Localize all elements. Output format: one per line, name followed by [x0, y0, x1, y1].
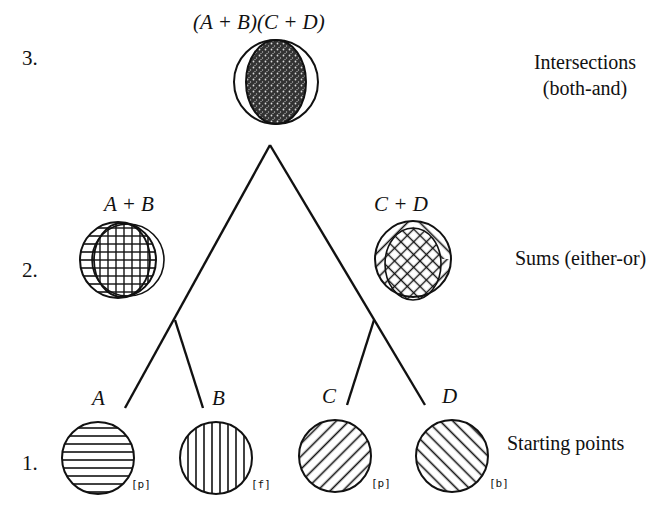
- intersections-subtitle: (both-and): [520, 75, 650, 101]
- node-d-label: D: [442, 384, 457, 409]
- node-c-label: C: [322, 384, 336, 409]
- node-b-tag: [f]: [251, 478, 271, 491]
- node-b-label: B: [212, 386, 225, 411]
- node-a-circle: [62, 422, 134, 494]
- sum-ab-formula: A + B: [104, 192, 154, 217]
- starting-points-description: Starting points: [507, 430, 667, 456]
- node-d-circle: [416, 420, 488, 492]
- sum-cd-circle: [375, 221, 451, 300]
- level-1-number: 1.: [22, 451, 38, 476]
- node-a-label: A: [92, 386, 105, 411]
- node-c-tag: [p]: [371, 477, 391, 490]
- intersections-description: Intersections (both-and): [520, 49, 650, 101]
- intersection-formula: (A + B)(C + D): [193, 10, 325, 35]
- level-2-number: 2.: [22, 258, 38, 283]
- intersections-title: Intersections: [520, 49, 650, 75]
- node-a-tag: [p]: [131, 478, 151, 491]
- node-b-circle: [180, 422, 252, 494]
- node-d-tag: [b]: [489, 477, 509, 490]
- line-branch-to-c: [347, 320, 374, 405]
- node-c-circle: [299, 420, 371, 492]
- intersection-circle: [234, 40, 318, 124]
- sum-cd-formula: C + D: [374, 192, 428, 217]
- line-branch-to-b: [175, 320, 203, 408]
- level-3-number: 3.: [22, 46, 38, 71]
- sum-ab-circle: [80, 222, 168, 298]
- sums-description: Sums (either-or): [515, 245, 671, 271]
